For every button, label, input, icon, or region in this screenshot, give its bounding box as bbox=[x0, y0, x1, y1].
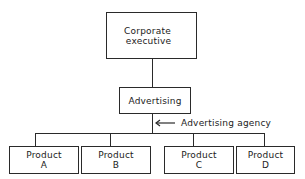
node-label-line2: executive bbox=[126, 36, 171, 46]
node-label-line1: Product bbox=[248, 150, 284, 160]
node-label-line1: Product bbox=[98, 150, 134, 160]
node-label-line2: C bbox=[196, 160, 202, 170]
node-product-b: Product B bbox=[81, 146, 151, 174]
node-label-line2: D bbox=[262, 160, 269, 170]
node-product-a: Product A bbox=[9, 146, 79, 174]
node-label-line1: Product bbox=[181, 150, 217, 160]
node-label-line2: A bbox=[41, 160, 47, 170]
node-label: Advertising bbox=[128, 96, 181, 106]
node-product-d: Product D bbox=[236, 146, 295, 174]
node-corporate-executive: Corporate executive bbox=[106, 12, 197, 59]
node-advertising: Advertising bbox=[119, 87, 191, 114]
node-label-line1: Corporate bbox=[124, 26, 171, 36]
advertising-agency-label: Advertising agency bbox=[181, 118, 271, 128]
node-label-line2: B bbox=[113, 160, 119, 170]
node-label-line1: Product bbox=[26, 150, 62, 160]
node-product-c: Product C bbox=[164, 146, 234, 174]
